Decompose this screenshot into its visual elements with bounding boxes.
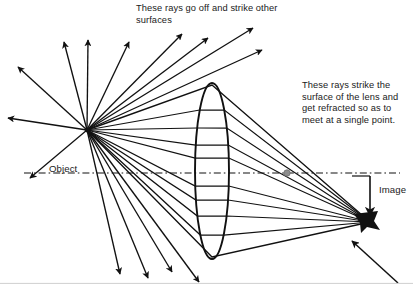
object-point-dot [85, 128, 90, 133]
object-label: Object [49, 163, 77, 175]
scattered-ray [64, 42, 87, 130]
scattered-ray [87, 50, 262, 130]
scattered-ray [87, 130, 148, 278]
optics-diagram-canvas [0, 0, 413, 285]
bottom-right-pointer-arrow [352, 241, 398, 283]
focal-point-dot [284, 170, 290, 176]
scattered-ray [87, 38, 208, 130]
image-label: Image [379, 184, 406, 196]
scattered-ray [87, 40, 88, 130]
lens-ray-diagram: These rays go off and strike other surfa… [0, 0, 413, 285]
refracted-rays-note: These rays strike the surface of the len… [302, 80, 410, 126]
scattered-rays-note: These rays go off and strike other surfa… [136, 3, 312, 26]
